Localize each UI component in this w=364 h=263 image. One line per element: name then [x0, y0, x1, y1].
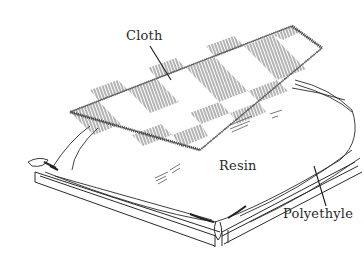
seam-shading	[50, 166, 246, 222]
polyethylene-label: Polyethyle	[283, 206, 353, 221]
cloth-sheet	[70, 26, 322, 150]
cloth-label: Cloth	[126, 28, 163, 43]
tray-frame	[35, 162, 362, 247]
resin-layup-illustration: Cloth Resin Polyethyle	[0, 0, 364, 263]
resin-label: Resin	[219, 158, 257, 173]
illustration-drawing	[0, 0, 364, 263]
